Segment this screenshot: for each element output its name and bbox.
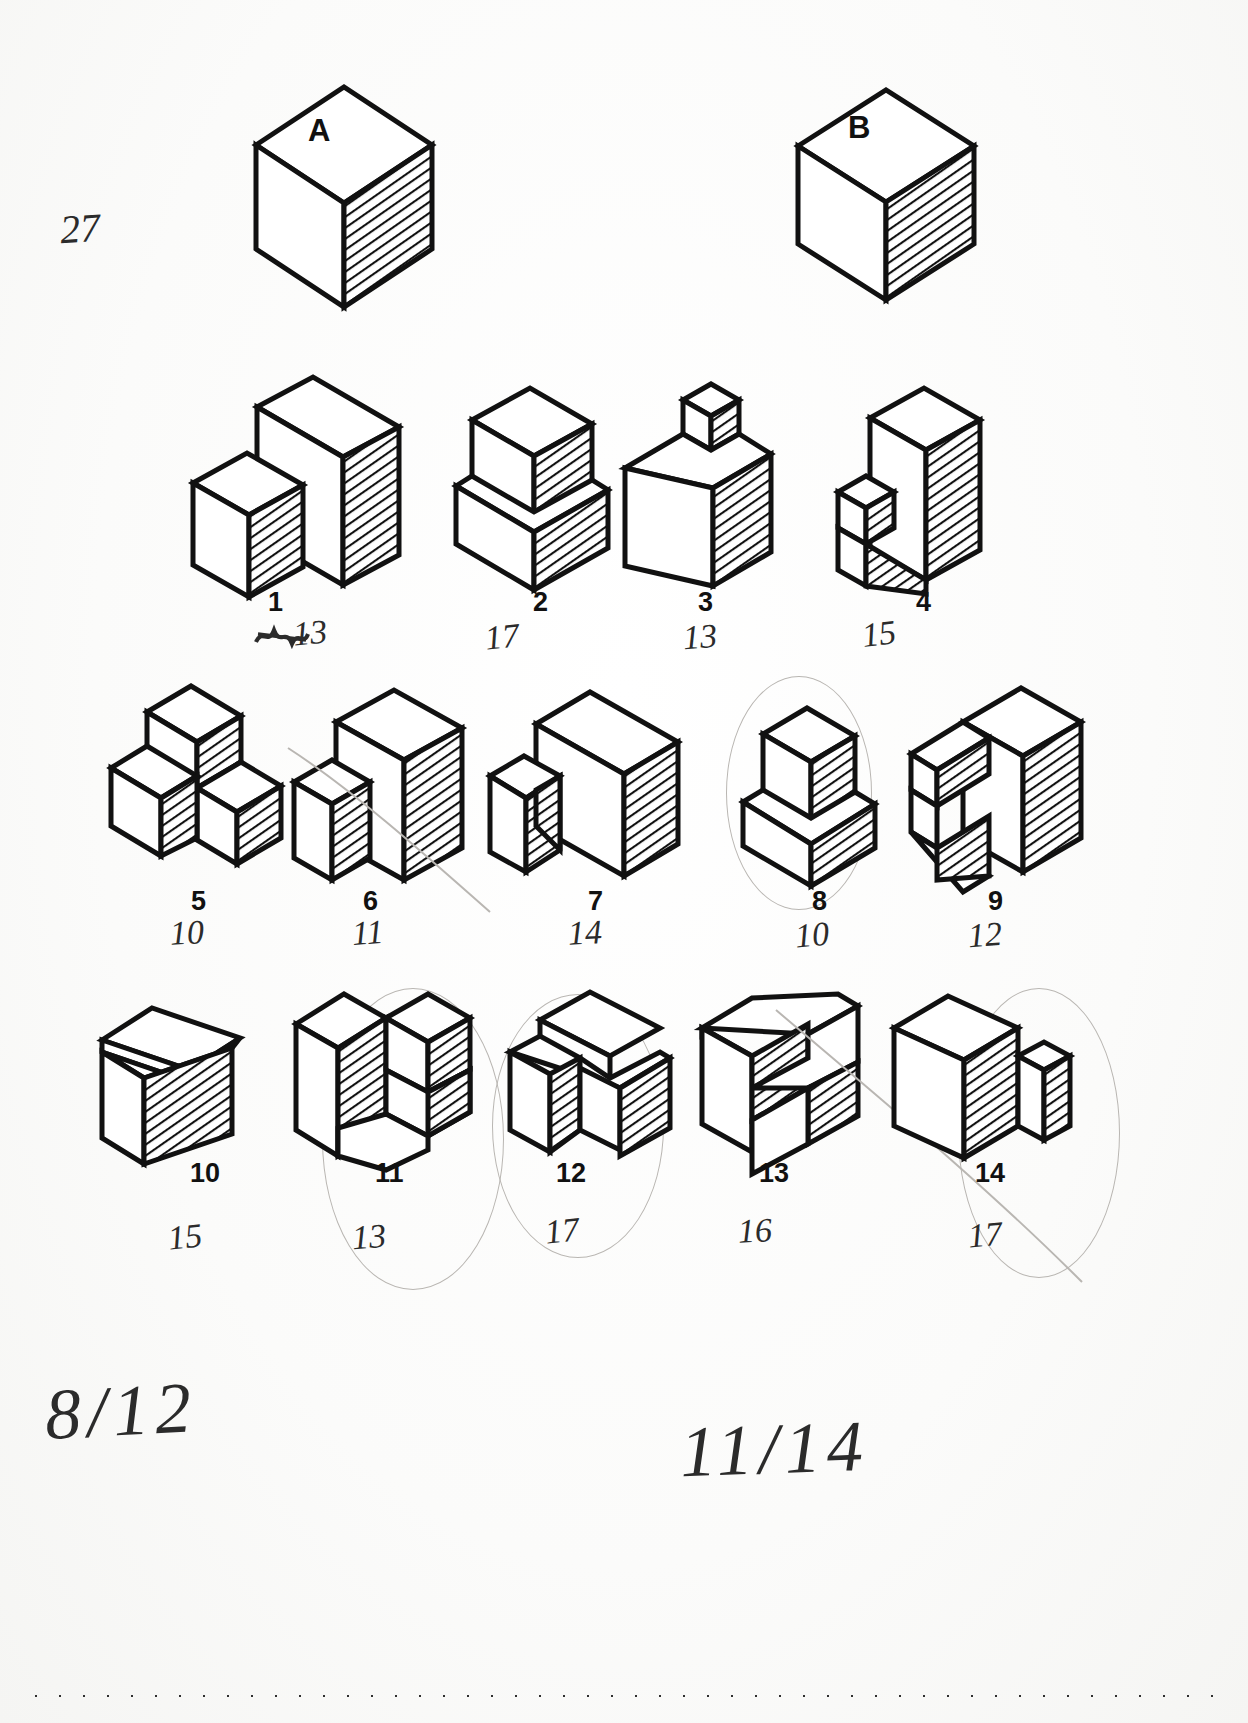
- figure-4-shape: [830, 380, 1050, 605]
- figure-14-shape: [880, 980, 1100, 1180]
- figure-3-label: 3: [698, 587, 713, 618]
- figure-13-annotation: 16: [737, 1211, 773, 1251]
- pencil-stray-line-1: [280, 740, 510, 920]
- score-left: 8/12: [43, 1366, 199, 1457]
- figure-10-annotation: 15: [166, 1216, 204, 1257]
- figure-3-shape: [615, 378, 835, 604]
- figure-11-annotation: 13: [351, 1217, 388, 1257]
- figure-4-annotation: 15: [860, 613, 898, 655]
- figure-3-annotation: 13: [682, 617, 719, 657]
- figure-11-label: 11: [375, 1158, 404, 1189]
- cube-b-letter: B: [848, 110, 870, 146]
- figure-cube-b: [790, 78, 980, 318]
- figure-12-label: 12: [556, 1158, 586, 1189]
- figure-12-annotation: 17: [543, 1210, 581, 1251]
- figure-9-label: 9: [988, 886, 1003, 917]
- figure-9-shape: [893, 676, 1108, 896]
- dotted-bottom-rule: [24, 1687, 1224, 1697]
- figure-1-annotation: 13: [291, 613, 328, 654]
- score-right: 11/14: [679, 1405, 870, 1495]
- figure-8-label: 8: [812, 886, 827, 917]
- figure-11-shape: [282, 980, 512, 1180]
- figure-2-label: 2: [533, 587, 548, 618]
- figure-10-label: 10: [190, 1158, 220, 1189]
- figure-4-label: 4: [916, 587, 931, 618]
- cube-a-letter: A: [308, 113, 330, 149]
- figure-cube-a: [248, 75, 438, 325]
- figure-9-annotation: 12: [967, 915, 1004, 955]
- figure-5-annotation: 10: [169, 913, 205, 953]
- figure-8-annotation: 10: [793, 915, 830, 956]
- figure-7-annotation: 14: [567, 913, 603, 953]
- figure-12-shape: [492, 980, 712, 1180]
- figure-1-label: 1: [268, 587, 283, 618]
- figure-2-annotation: 17: [483, 616, 521, 657]
- figure-14-label: 14: [975, 1158, 1005, 1189]
- figure-14-annotation: 17: [966, 1215, 1003, 1256]
- figure-1-shape: [185, 385, 415, 605]
- figure-7-shape: [478, 680, 708, 900]
- worksheet-page: 27 A B 1 13: [0, 0, 1248, 1723]
- handwritten-page-number: 27: [58, 204, 101, 254]
- figure-10-shape: [88, 986, 288, 1186]
